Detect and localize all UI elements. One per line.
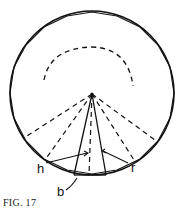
label-h: h [37, 162, 44, 175]
label-b: b [57, 185, 64, 198]
figure-caption: FIG. 17 [3, 197, 36, 208]
label-r: r [131, 161, 135, 174]
geometry-figure [0, 0, 185, 210]
dashed-arc [44, 47, 133, 86]
